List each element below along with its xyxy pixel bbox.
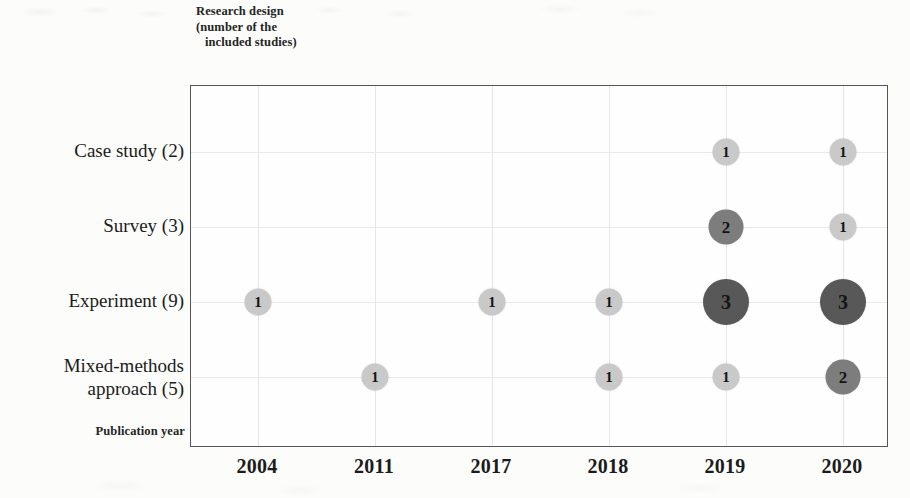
year-label-2017: 2017 bbox=[431, 455, 551, 478]
bubble-2019-mixed-methods-approach-5[interactable]: 1 bbox=[713, 364, 740, 391]
gridline-horizontal-experiment bbox=[191, 302, 887, 303]
gridline-horizontal-survey bbox=[191, 227, 887, 228]
bubble-2018-experiment-9[interactable]: 1 bbox=[596, 289, 623, 316]
category-label-mixed-methods-approach: Mixed-methods approach (5) bbox=[0, 354, 184, 400]
plot-area: 1121111331112 bbox=[190, 85, 888, 447]
bubble-value-label: 1 bbox=[254, 294, 262, 311]
gridline-horizontal-case-study bbox=[191, 152, 887, 153]
category-label-experiment: Experiment (9) bbox=[0, 290, 184, 312]
gridline-vertical-2004 bbox=[258, 86, 259, 446]
bubble-2020-experiment-9[interactable]: 3 bbox=[820, 279, 866, 325]
bubble-2019-experiment-9[interactable]: 3 bbox=[703, 279, 749, 325]
bubble-value-label: 3 bbox=[721, 291, 731, 314]
bubble-value-label: 1 bbox=[605, 369, 613, 386]
bubble-2019-survey-3[interactable]: 2 bbox=[709, 210, 744, 245]
bubble-2020-case-study-2[interactable]: 1 bbox=[830, 139, 857, 166]
year-label-2018: 2018 bbox=[548, 455, 668, 478]
gridline-vertical-2011 bbox=[375, 86, 376, 446]
category-label-mixed-methods-line-2: approach (5) bbox=[0, 377, 184, 400]
bubble-value-label: 1 bbox=[488, 294, 496, 311]
y-axis-title-line-3: included studies) bbox=[196, 35, 376, 51]
gridline-vertical-2017 bbox=[492, 86, 493, 446]
bubble-2020-mixed-methods-approach-5[interactable]: 2 bbox=[826, 360, 861, 395]
bubble-value-label: 1 bbox=[722, 144, 730, 161]
bubble-2017-experiment-9[interactable]: 1 bbox=[479, 289, 506, 316]
bubble-value-label: 3 bbox=[838, 291, 848, 314]
year-label-2004: 2004 bbox=[197, 455, 317, 478]
year-label-2011: 2011 bbox=[314, 455, 434, 478]
category-label-survey: Survey (3) bbox=[0, 215, 184, 237]
gridline-horizontal-mixed-methods bbox=[191, 377, 887, 378]
y-axis-title: Research design (number of the included … bbox=[196, 4, 376, 51]
y-axis-title-line-1: Research design bbox=[196, 4, 376, 20]
category-label-case-study: Case study (2) bbox=[0, 140, 184, 162]
bubble-value-label: 1 bbox=[605, 294, 613, 311]
x-axis-title: Publication year bbox=[10, 424, 185, 439]
grid-layer bbox=[191, 86, 887, 446]
bubble-chart: Research design (number of the included … bbox=[0, 0, 910, 498]
gridline-vertical-2018 bbox=[609, 86, 610, 446]
bubble-value-label: 1 bbox=[371, 369, 379, 386]
bubble-value-label: 2 bbox=[839, 367, 848, 387]
bubble-2019-case-study-2[interactable]: 1 bbox=[713, 139, 740, 166]
category-label-mixed-methods-line-1: Mixed-methods bbox=[0, 354, 184, 377]
bubble-2011-mixed-methods-approach-5[interactable]: 1 bbox=[362, 364, 389, 391]
bubble-value-label: 1 bbox=[839, 219, 847, 236]
year-label-2019: 2019 bbox=[665, 455, 785, 478]
bubble-value-label: 1 bbox=[839, 144, 847, 161]
year-label-2020: 2020 bbox=[782, 455, 902, 478]
bubble-value-label: 2 bbox=[722, 217, 731, 237]
bubble-2020-survey-3[interactable]: 1 bbox=[830, 214, 857, 241]
bubble-value-label: 1 bbox=[722, 369, 730, 386]
y-axis-title-line-2: (number of the bbox=[196, 20, 376, 36]
bubble-2004-experiment-9[interactable]: 1 bbox=[245, 289, 272, 316]
bubble-2018-mixed-methods-approach-5[interactable]: 1 bbox=[596, 364, 623, 391]
